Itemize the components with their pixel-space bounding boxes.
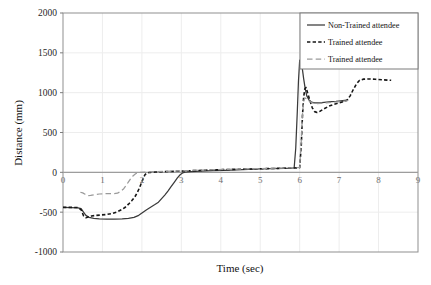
x-tick-label: 4 [219,175,224,185]
x-tick-label: 1 [100,175,105,185]
legend-label-2: Trained attendee [328,55,383,64]
y-tick-label: 2000 [38,8,57,18]
x-tick-label: 5 [258,175,263,185]
y-tick-label: 1000 [38,88,57,98]
legend-label-0: Non-Trained attendee [328,21,400,30]
x-tick-label: 0 [61,175,66,185]
legend-label-1: Trained attendee [328,38,383,47]
chart-figure: 0123456789 -1000-5000500100015002000 Tim… [0,0,431,285]
y-axis-title: Distance (mm) [12,100,25,166]
x-tick-label: 7 [337,175,342,185]
x-tick-label: 9 [416,175,421,185]
line-chart: 0123456789 -1000-5000500100015002000 Tim… [0,0,431,285]
y-tick-label: -1000 [35,247,57,257]
x-tick-label: 6 [297,175,302,185]
y-tick-label: -500 [40,208,58,218]
y-tick-label: 0 [52,168,57,178]
y-tick-label: 1500 [38,48,57,58]
x-axis-title: Time (sec) [217,262,264,275]
x-tick-label: 2 [140,175,145,185]
x-tick-label: 3 [179,175,184,185]
chart-legend: Non-Trained attendeeTrained attendeeTrai… [300,13,418,69]
x-tick-label: 8 [376,175,381,185]
y-tick-label: 500 [43,128,58,138]
